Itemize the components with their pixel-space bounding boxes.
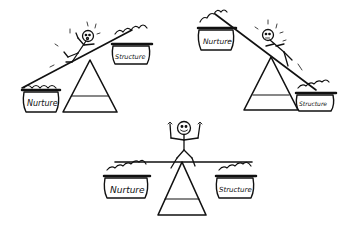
nurture-label: Nurture xyxy=(27,99,58,108)
structure-label: Structure xyxy=(115,53,145,61)
fulcrum-triangle xyxy=(158,162,206,215)
structure-pot: Structure xyxy=(296,80,336,111)
scene-nurture-heavy: Nurture Structure xyxy=(22,22,152,112)
stick-figure xyxy=(168,122,202,169)
nurture-label: Nurture xyxy=(110,185,145,195)
fulcrum-triangle xyxy=(63,60,117,112)
nurture-label: Nurture xyxy=(203,37,232,46)
structure-label: Structure xyxy=(299,100,327,107)
structure-pot: Structure xyxy=(216,162,256,198)
illustration: Nurture Structure xyxy=(0,0,354,231)
fulcrum-triangle xyxy=(244,57,298,110)
nurture-pot: Nurture xyxy=(22,86,60,113)
structure-label: Structure xyxy=(219,186,252,194)
nurture-pot: Nurture xyxy=(104,160,150,198)
scene-structure-heavy: Nurture Structure xyxy=(198,10,336,111)
seesaw-beam xyxy=(215,14,316,90)
scene-balanced: Nurture Structure xyxy=(104,122,256,216)
